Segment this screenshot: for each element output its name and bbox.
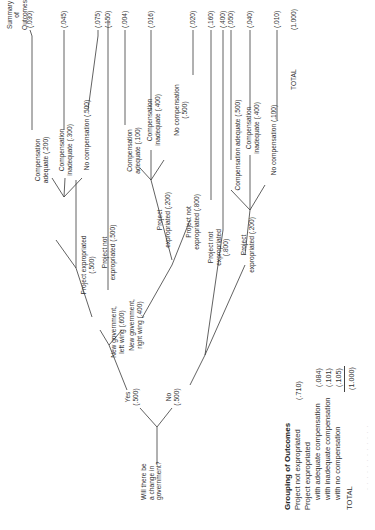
- branch-left-wing: New government, left wing (.600): [110, 302, 125, 362]
- outcome-value: (.150): [104, 11, 112, 28]
- caption: · · · · · · · · · · · ·: [364, 425, 370, 490]
- branch-rw-no-comp: No compensation (.500): [173, 75, 188, 145]
- branch-no: No (.500): [165, 382, 180, 412]
- root-question: Will there be a change in government?: [140, 460, 163, 500]
- outcome-value: (.160): [207, 11, 215, 28]
- outcome-value: (.030): [26, 11, 34, 28]
- total-value: (1.000): [290, 9, 298, 30]
- branch-rw-comp-inadequate: Compensation inadequate (.400): [146, 90, 161, 150]
- outcome-value: (.040): [246, 11, 254, 28]
- grouping-row: Project not expropriated: [293, 429, 303, 510]
- grouping-total-label: TOTAL: [345, 486, 355, 510]
- outcome-value: (.020): [189, 11, 197, 28]
- outcome-value: (.010): [273, 11, 281, 28]
- branch-lw-comp-inadequate: Compensation inadequate (.300): [58, 120, 73, 180]
- branch-yes: Yes (.500): [124, 382, 139, 412]
- grouping-total-value: (1.000): [347, 367, 356, 390]
- outcome-value: (.075): [94, 11, 102, 28]
- branch-rw-comp-adequate: Compensation adequate (.100): [126, 123, 141, 178]
- outcome-value: (.050): [227, 11, 235, 28]
- outcome-value: (.400): [219, 11, 227, 28]
- branch-rw-expropriated: Project expropriated (.200): [156, 190, 171, 250]
- branch-no-comp-inadequate: Compensation inadequate (.400): [245, 98, 260, 158]
- total-label: TOTAL: [290, 69, 298, 90]
- outcome-value: (.016): [147, 11, 155, 28]
- branch-lw-no-comp: No compensation (.500): [83, 95, 91, 175]
- total-rule: [344, 366, 345, 392]
- branch-no-comp-adequate: Compensation adequate (.500): [234, 90, 242, 200]
- grouping-value: (.084): [314, 368, 323, 387]
- branch-no-not-expropriated: Project not expropriated (.800): [207, 220, 230, 275]
- grouping-value: (.101): [324, 368, 333, 387]
- outcome-value: (.045): [60, 11, 68, 28]
- branch-lw-comp-adequate: Compensation adequate (.200): [34, 130, 49, 190]
- grouping-value: (.105): [334, 368, 343, 387]
- grouping-title: Grouping of Outcomes: [283, 423, 292, 510]
- branch-lw-expropriated: Project expropriated (.500): [80, 230, 95, 300]
- grouping-row: with no compensation: [333, 427, 343, 500]
- grouping-row: with inadequate compensation: [323, 397, 333, 500]
- branch-rw-not-expropriated: Project not expropriated (.800): [185, 192, 200, 252]
- branch-lw-not-expropriated: Project not expropriated (.500): [101, 220, 116, 285]
- outcome-value: (.004): [121, 11, 129, 28]
- summary-header: Summary of Outcomes: [6, 0, 28, 30]
- branch-no-expropriated: Project expropriated (.200): [240, 215, 255, 275]
- branch-no-no-comp: No compensation (.100): [270, 95, 278, 185]
- grouping-row: Project expropriated: [303, 442, 313, 510]
- decision-tree-page: Summary of Outcomes Will there be a chan…: [0, 0, 375, 530]
- grouping-row: with adequate compensation: [313, 403, 323, 500]
- branch-right-wing: New government, right wing (.400): [128, 295, 143, 355]
- grouping-value: (.710): [294, 381, 303, 400]
